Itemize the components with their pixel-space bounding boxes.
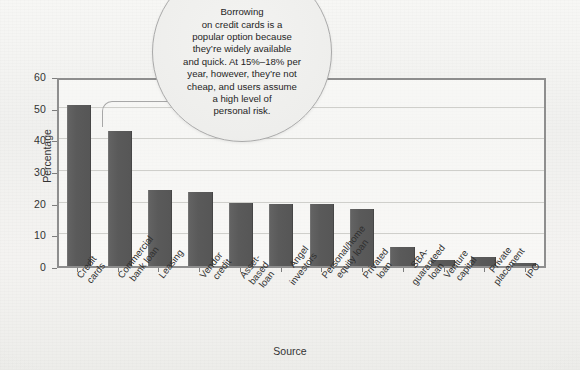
x-axis-tick-labels: Credit cardsCommercial bank loanLeasingV… (57, 272, 546, 342)
callout-text-line: Borrowing (167, 6, 317, 18)
x-axis-label: Source (0, 345, 580, 357)
callout-text-line: on credit cards is a (167, 19, 317, 31)
x-label-cell: Credit cards (57, 272, 98, 342)
x-label-cell: Privated loan (342, 272, 383, 342)
bar-cell (382, 80, 422, 266)
y-axis-tick-label: 10 (0, 229, 46, 241)
bar (108, 131, 132, 266)
callout-text-line: a high level of (167, 93, 317, 105)
y-axis-tick-label: 60 (0, 71, 46, 83)
x-label-cell: Angel investors (261, 272, 302, 342)
x-label-cell: Commercial bank loan (98, 272, 139, 342)
x-label-cell: Private placement (465, 272, 506, 342)
y-axis-tick-label: 0 (0, 261, 46, 273)
x-label-cell: Asset- based loan (220, 272, 261, 342)
x-label-cell: Venture capital (424, 272, 465, 342)
callout-text-line: and quick. At 15%–18% per (167, 56, 317, 68)
figure-caption (28, 362, 560, 370)
y-axis-tick-label: 50 (0, 103, 46, 115)
y-axis-tick-mark (52, 236, 57, 237)
x-label-cell: Leasing (139, 272, 180, 342)
y-axis-tick-label: 30 (0, 166, 46, 178)
y-axis-tick-mark (52, 173, 57, 174)
bar-cell (59, 80, 99, 266)
y-axis-label: Percentage (41, 101, 53, 211)
x-label-cell: Vendor credit (179, 272, 220, 342)
callout-text-line: they’re widely available (167, 43, 317, 55)
callout-text-line: personal risk. (167, 105, 317, 117)
bar-cell (504, 80, 544, 266)
x-label-cell: Personal/home equity loan (302, 272, 343, 342)
callout-text-line: popular option because (167, 31, 317, 43)
y-axis-tick-mark (52, 141, 57, 142)
y-axis-tick-label: 20 (0, 198, 46, 210)
x-label-cell: SBA-guaranteed loan (383, 272, 424, 342)
callout-text: Borrowingon credit cards is apopular opt… (167, 0, 317, 118)
y-axis-tick-mark (52, 110, 57, 111)
bar (188, 192, 212, 266)
bar-cell (463, 80, 503, 266)
y-axis-tick-mark (52, 205, 57, 206)
y-axis-tick-label: 40 (0, 134, 46, 146)
bar (67, 105, 91, 267)
callout-text-line: year, however, they’re not (167, 68, 317, 80)
callout-text-line: cheap, and users assume (167, 81, 317, 93)
x-label-cell: IPO (505, 272, 546, 342)
y-axis-tick-mark (52, 78, 57, 79)
